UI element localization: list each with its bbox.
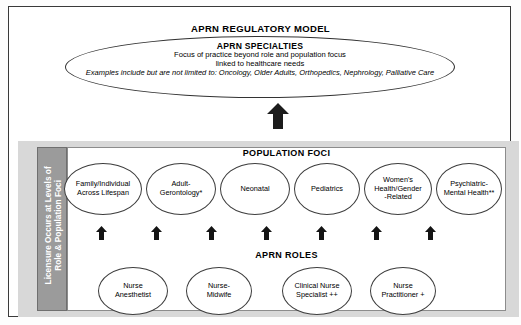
aprn-role-node-2[interactable]: Clinical Nurse Specialist ++ <box>282 267 352 315</box>
population-focus-node-4[interactable]: Women's Health/Gender -Related <box>364 163 432 215</box>
population-focus-node-1[interactable]: Adult- Gerontology* <box>146 163 216 215</box>
diagram-outer-frame: APRN REGULATORY MODEL APRN SPECIALTIES F… <box>8 6 511 317</box>
population-focus-node-label-1: Adult- Gerontology* <box>158 180 205 198</box>
page-title: APRN REGULATORY MODEL <box>9 23 512 34</box>
population-focus-node-label-0: Family/Individual Across Lifespan <box>74 180 132 198</box>
population-focus-node-label-2: Neonatal <box>238 185 271 194</box>
population-focus-node-0[interactable]: Family/Individual Across Lifespan <box>64 163 142 215</box>
specialties-examples: Examples include but are not limited to:… <box>65 69 455 78</box>
population-focus-node-label-3: Pediatrics <box>309 185 345 194</box>
licensure-sidebar: Licensure Occurs at Levels of Role & Pop… <box>37 147 67 311</box>
aprn-specialties-text-block: APRN SPECIALTIES Focus of practice beyon… <box>65 41 455 78</box>
aprn-role-node-1[interactable]: Nurse- Midwife <box>186 267 252 315</box>
up-arrow-icon-1 <box>151 226 162 240</box>
up-arrow-icon-5 <box>371 226 382 240</box>
aprn-role-node-3[interactable]: Nurse Practitioner + <box>370 267 436 315</box>
up-arrow-icon-4 <box>316 226 327 240</box>
aprn-role-node-label-0: Nurse Anesthetist <box>113 282 153 300</box>
up-arrow-icon-3 <box>261 226 272 240</box>
aprn-role-node-label-2: Clinical Nurse Specialist ++ <box>292 282 341 300</box>
up-arrow-icon-6 <box>425 226 436 240</box>
population-focus-node-label-5: Psychiatric- Mental Health** <box>442 180 497 198</box>
up-arrow-icon-2 <box>206 226 217 240</box>
population-focus-node-3[interactable]: Pediatrics <box>294 163 360 215</box>
up-arrow-icon-0 <box>96 226 107 240</box>
aprn-role-node-label-1: Nurse- Midwife <box>205 282 234 300</box>
aprn-role-node-label-3: Nurse Practitioner + <box>379 282 426 300</box>
diagram-page: APRN REGULATORY MODEL APRN SPECIALTIES F… <box>0 0 521 325</box>
licensure-sidebar-label: Licensure Occurs at Levels of Role & Pop… <box>43 143 64 307</box>
population-foci-heading: POPULATION FOCI <box>67 148 506 158</box>
up-arrow-to-specialties-icon <box>267 103 289 129</box>
aprn-roles-heading: APRN ROLES <box>67 250 506 260</box>
population-focus-node-label-4: Women's Health/Gender -Related <box>372 176 423 203</box>
aprn-role-node-0[interactable]: Nurse Anesthetist <box>98 267 168 315</box>
population-focus-node-5[interactable]: Psychiatric- Mental Health** <box>436 163 502 215</box>
population-focus-node-2[interactable]: Neonatal <box>220 163 290 215</box>
